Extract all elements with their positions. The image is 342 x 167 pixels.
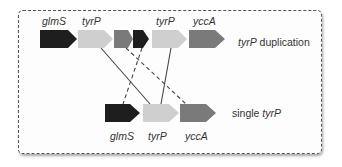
gene-label-glmS-bottom: glmS — [110, 130, 134, 142]
row-label-duplication: tyrP duplication — [238, 36, 310, 48]
row-label-duplication-gene: tyrP — [238, 36, 257, 48]
gene-arrow-tyrP-2 — [152, 30, 187, 48]
connection-tyrP-copy2 — [161, 48, 171, 104]
row-label-single-gene: tyrP — [262, 107, 281, 119]
row-label-single-prefix: single — [232, 107, 262, 119]
gene-arrow-glmS-fragment — [133, 30, 149, 48]
gene-arrow-tyrP-single — [143, 104, 179, 122]
gene-arrow-tyrP-1 — [78, 30, 113, 48]
gene-label-yccA-top: yccA — [192, 15, 216, 27]
gene-label-tyrP-top-1: tyrP — [82, 15, 101, 27]
gene-label-tyrP-top-2: tyrP — [156, 15, 175, 27]
gene-label-glmS-top: glmS — [42, 15, 66, 27]
gene-arrow-glmS — [40, 30, 77, 48]
gene-arrow-yccA-fragment — [114, 30, 133, 48]
gene-arrow-yccA-single — [180, 104, 216, 122]
gene-label-tyrP-bottom: tyrP — [148, 130, 167, 142]
row-label-duplication-suffix: duplication — [257, 36, 310, 48]
gene-diagram: glmS tyrP tyrP yccA tyrP duplication glm… — [0, 0, 342, 167]
gene-arrow-glmS-single — [105, 104, 140, 122]
gene-arrow-yccA — [189, 30, 225, 48]
gene-label-yccA-bottom: yccA — [184, 130, 208, 142]
connection-yccA-fragment — [126, 48, 186, 104]
row-label-single: single tyrP — [232, 107, 281, 119]
